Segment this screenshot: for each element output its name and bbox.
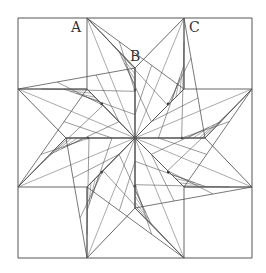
label-b: B xyxy=(130,49,140,63)
label-a: A xyxy=(71,20,81,34)
label-c: C xyxy=(189,20,200,34)
star-block-drawing xyxy=(0,0,266,273)
